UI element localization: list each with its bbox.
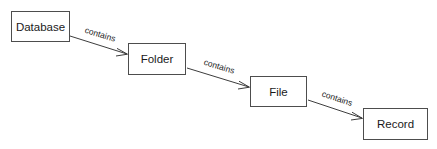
relation-label: contains: [84, 25, 117, 44]
entity-label: File: [269, 86, 288, 98]
entity-file[interactable]: File: [251, 77, 307, 107]
entity-label: Record: [377, 118, 414, 130]
relation-label: contains: [321, 89, 354, 108]
entity-label: Database: [16, 21, 65, 33]
entity-label: Folder: [141, 53, 174, 65]
relation-folder-contains-file: contains: [187, 57, 250, 89]
entity-record[interactable]: Record: [364, 109, 428, 140]
entity-database[interactable]: Database: [12, 12, 70, 42]
diagram-svg-canvas: contains contains contains Database Fold…: [0, 0, 437, 149]
entity-relationship-diagram: contains contains contains Database Fold…: [0, 0, 437, 149]
entity-folder[interactable]: Folder: [129, 44, 186, 75]
relation-database-contains-folder: contains: [70, 25, 128, 56]
relation-label: contains: [203, 57, 236, 76]
relation-file-contains-record: contains: [308, 89, 363, 120]
